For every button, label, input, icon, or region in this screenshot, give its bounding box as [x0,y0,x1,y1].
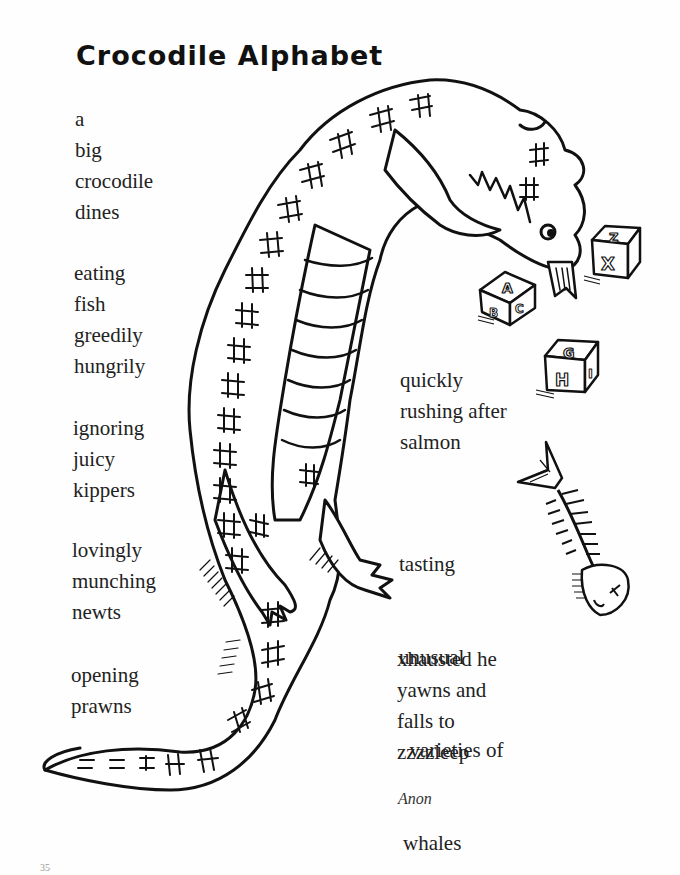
stanza-2: eating fish greedily hungrily [74,258,145,382]
poem-line: tasting [399,549,503,580]
poem-line: munching [72,566,156,597]
stanza-1: a big crocodile dines [75,104,153,228]
poem-line: ignoring [73,413,144,444]
letter-block-zx-icon: Z X [584,226,640,284]
poem-line: greedily [74,320,145,351]
poem-line: xhausted he [397,644,497,675]
poem-line: yawns and [397,675,497,706]
letter-block-ghi-icon: G H I [536,340,598,398]
poem-line: a [75,104,153,135]
fish-skeleton-icon [518,442,629,615]
poem-line: hungrily [74,351,145,382]
stanza-4: lovingly munching newts [72,535,156,628]
poem-line: eating [74,258,145,289]
poem-line: salmon [400,427,507,458]
poem-line: quickly [400,365,507,396]
svg-text:B: B [489,306,498,320]
poem-line: crocodile [75,166,153,197]
poem-line: kippers [73,475,144,506]
letter-block-abc-icon: A B C [478,272,535,325]
poem-line: falls to [397,706,497,737]
poem-author: Anon [398,790,432,808]
poem-line: juicy [73,444,144,475]
page-number: 35 [40,862,50,873]
poem-line: dines [75,197,153,228]
poem-line: lovingly [72,535,156,566]
svg-text:A: A [502,280,513,296]
stanza-3: ignoring juicy kippers [73,413,144,506]
poem-line: newts [72,597,156,628]
svg-text:H: H [555,370,569,390]
svg-text:C: C [515,302,524,316]
poem-line: fish [74,289,145,320]
poem-line: big [75,135,153,166]
poem-line: prawns [71,691,139,722]
poem-line: rushing after [400,396,507,427]
svg-text:I: I [588,366,593,381]
stanza-6: quickly rushing after salmon [400,365,507,458]
svg-text:Z: Z [609,230,618,245]
svg-text:G: G [563,345,575,361]
poem-line: opening [71,660,139,691]
stanza-5: opening prawns [71,660,139,722]
poem-page: Crocodile Alphabet [0,0,680,875]
svg-text:X: X [601,253,615,274]
poem-title: Crocodile Alphabet [76,40,383,71]
poem-line: whales [399,828,503,859]
poem-line: zzzzleep [397,737,497,768]
stanza-8: xhausted he yawns and falls to zzzzleep [397,644,497,768]
